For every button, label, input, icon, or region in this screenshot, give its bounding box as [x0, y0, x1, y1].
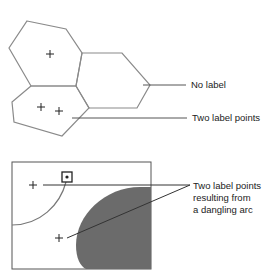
upper-polygon [9, 21, 82, 86]
shaded-area [76, 187, 151, 269]
cross-icon [46, 50, 54, 58]
label-point-crosses-bottom [29, 181, 63, 242]
callout-label-two-label-points: Two label points [192, 112, 260, 123]
label-point-crosses-top [37, 50, 63, 115]
cross-icon [55, 234, 63, 242]
callout-label-no-label: No label [191, 79, 226, 90]
callout-label-dangling-line3: a dangling arc [193, 204, 253, 215]
dangling-arc [12, 182, 66, 225]
callout-label-dangling-line1: Two label points [193, 180, 261, 191]
cross-icon [55, 107, 63, 115]
cross-icon [29, 181, 37, 189]
node-dot-icon [65, 175, 68, 178]
callout-lines-top [72, 85, 187, 118]
top-polygons [9, 21, 150, 136]
cross-icon [37, 103, 45, 111]
callout-label-dangling-line2: resulting from [193, 192, 251, 203]
diagram-canvas [0, 0, 270, 273]
right-polygon [76, 53, 150, 108]
lower-polygon [12, 86, 89, 136]
